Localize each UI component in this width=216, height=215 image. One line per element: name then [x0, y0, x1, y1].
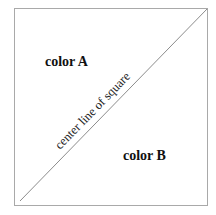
- color-a-label: color A: [45, 54, 89, 69]
- square-diagram: color A color B center line of square: [0, 0, 216, 215]
- color-b-label: color B: [123, 148, 166, 163]
